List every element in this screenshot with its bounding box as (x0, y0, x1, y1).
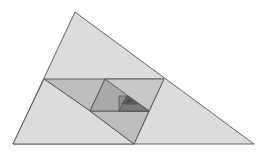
diagram-shapes (13, 12, 254, 144)
nested-triangle-diagram (0, 0, 266, 152)
